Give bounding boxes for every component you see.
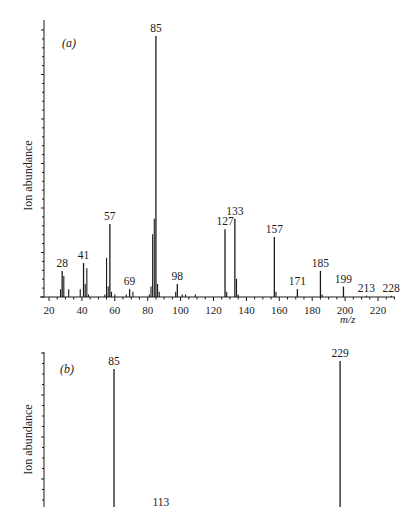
peak-label-a-228: 228 xyxy=(383,282,401,294)
x-tick-label-a: 60 xyxy=(109,304,121,316)
x-tick-label-a: 100 xyxy=(172,304,189,316)
peak-label-a-127: 127 xyxy=(216,215,234,227)
x-tick-label-a: 140 xyxy=(238,304,255,316)
peak-label-a-69: 69 xyxy=(124,275,136,287)
figure: 2040608010012014016018020022028415769859… xyxy=(0,0,416,507)
peak-label-a-199: 199 xyxy=(335,273,353,285)
peak-label-a-157: 157 xyxy=(266,223,284,235)
x-tick-label-a: 220 xyxy=(370,304,387,316)
peak-label-a-213: 213 xyxy=(358,282,376,294)
x-axis-unit-a: m/z xyxy=(340,313,355,325)
peak-label-a-133: 133 xyxy=(226,205,244,217)
y-axis-label-a: Ion abundance xyxy=(21,136,36,216)
x-tick-label-a: 40 xyxy=(76,304,88,316)
x-tick-label-a: 20 xyxy=(44,304,56,316)
peak-label-a-185: 185 xyxy=(312,257,330,269)
peak-label-a-171: 171 xyxy=(289,275,307,287)
peak-label-b-85: 85 xyxy=(108,355,120,367)
x-tick-label-a: 120 xyxy=(205,304,222,316)
peak-label-b-113: 113 xyxy=(153,496,170,507)
peak-label-a-28: 28 xyxy=(56,257,68,269)
x-tick-label-a: 80 xyxy=(142,304,154,316)
x-tick-label-a: 180 xyxy=(304,304,321,316)
y-axis-label-b: Ion abundance xyxy=(21,400,36,480)
x-tick-label-a: 160 xyxy=(271,304,288,316)
peak-label-a-85: 85 xyxy=(150,22,162,34)
peak-label-a-57: 57 xyxy=(104,210,116,222)
peak-label-a-98: 98 xyxy=(172,270,184,282)
panel-label-a: (a) xyxy=(62,36,76,51)
peak-label-a-41: 41 xyxy=(78,249,90,261)
panel-label-b: (b) xyxy=(60,362,74,377)
spectra-canvas: 2040608010012014016018020022028415769859… xyxy=(0,0,416,507)
peak-label-b-229: 229 xyxy=(331,347,349,359)
